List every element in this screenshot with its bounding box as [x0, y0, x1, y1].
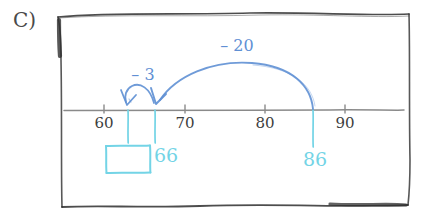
jump-arcs: [0, 0, 422, 219]
arc-minus-20: [160, 63, 313, 109]
marker-label-86: 86: [303, 150, 327, 169]
arrowhead-63: [121, 90, 136, 105]
worksheet-problem: C) 60 70 80 90: [0, 0, 422, 219]
marker-label-66: 66: [154, 146, 178, 165]
hop-label-minus-20: – 20: [220, 38, 253, 54]
hop-label-minus-3: – 3: [131, 67, 154, 83]
answer-box[interactable]: [104, 143, 152, 175]
